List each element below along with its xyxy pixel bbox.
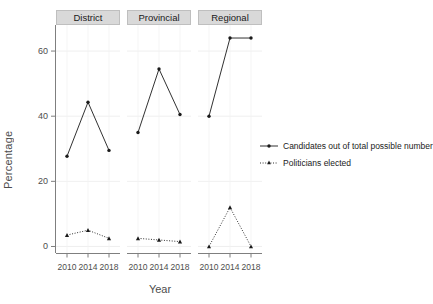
panel-strip-label: Provincial (127, 10, 191, 25)
legend-item[interactable]: Candidates out of total possible number (258, 138, 428, 153)
legend-label-politicians: Politicians elected (280, 158, 351, 168)
legend-key-solid-circle-icon (258, 139, 280, 153)
legend-label-candidates: Candidates out of total possible number (280, 141, 433, 151)
legend: Candidates out of total possible number … (258, 138, 428, 172)
panel-provincial (127, 25, 191, 253)
y-tick-label: 20 (28, 176, 48, 186)
panel-regional (198, 25, 262, 253)
panel-strip-label: District (56, 10, 120, 25)
y-axis-ticks: 0204060 (20, 0, 48, 304)
y-axis-label: Percentage (2, 100, 16, 220)
legend-key-dotted-triangle-icon (258, 156, 280, 170)
y-tick-label: 60 (28, 46, 48, 56)
panel-strip-label: Regional (198, 10, 262, 25)
panel-district (56, 25, 120, 253)
y-tick-label: 40 (28, 111, 48, 121)
y-tick-label: 0 (28, 241, 48, 251)
x-tick-label: 2018 (239, 262, 263, 272)
x-tick-label: 2018 (97, 262, 121, 272)
x-tick-label: 2018 (168, 262, 192, 272)
x-axis-label: Year (50, 283, 270, 295)
legend-item[interactable]: Politicians elected (258, 155, 428, 170)
